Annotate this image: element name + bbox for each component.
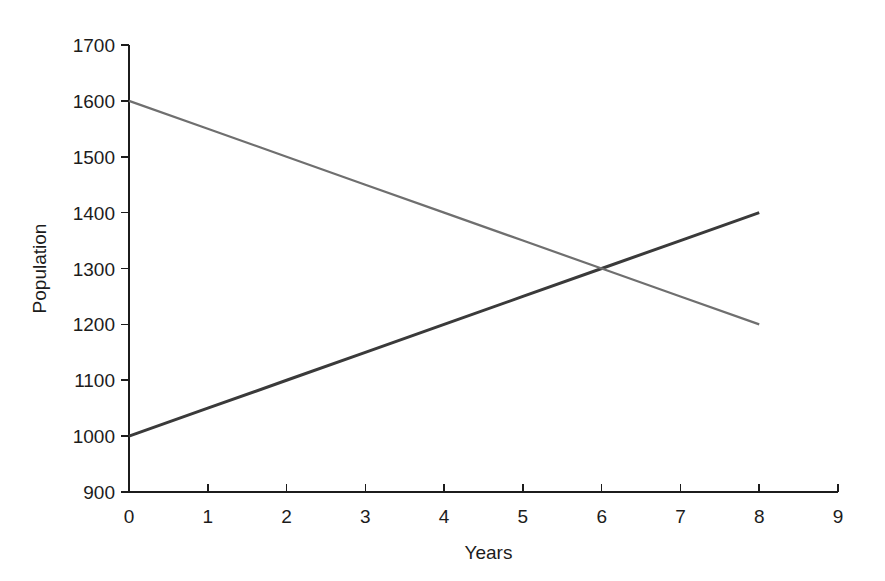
x-tick-label: 2 [281,506,292,527]
x-tick-label: 9 [833,506,844,527]
x-tick-label: 6 [596,506,607,527]
y-axis-label: Population [29,224,50,314]
x-tick-label: 4 [439,506,450,527]
population-line-chart: 9001000110012001300140015001600170001234… [0,0,885,581]
x-axis-label: Years [465,542,513,563]
x-tick-label: 8 [754,506,765,527]
axes-group [129,45,838,492]
y-tick-label: 1100 [74,370,115,391]
x-tick-label: 3 [360,506,371,527]
y-tick-group: 90010001100120013001400150016001700 [73,35,129,503]
y-tick-label: 900 [83,482,115,503]
y-tick-label: 1300 [73,259,115,280]
y-tick-label: 1600 [73,91,115,112]
series-group [129,101,759,436]
y-tick-label: 1700 [73,35,115,56]
y-tick-label: 1400 [73,203,115,224]
series-line-increasing-population [129,213,759,437]
x-tick-group: 0123456789 [124,483,844,527]
chart-page: 9001000110012001300140015001600170001234… [0,0,885,581]
x-tick-label: 5 [518,506,529,527]
y-tick-label: 1500 [73,147,115,168]
x-tick-label: 0 [124,506,135,527]
y-tick-label: 1000 [73,426,115,447]
x-tick-label: 1 [202,506,213,527]
series-line-decreasing-population [129,101,759,325]
x-tick-label: 7 [675,506,686,527]
y-tick-label: 1200 [73,314,115,335]
